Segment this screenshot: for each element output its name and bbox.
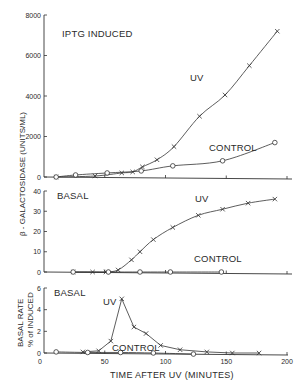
x-marker-icon	[116, 268, 120, 272]
top-panel-title: IPTG INDUCED	[62, 28, 133, 39]
middle-y-tick-label: 20	[33, 228, 41, 235]
figure: 0200040006000800001020304002460501001502…	[0, 0, 305, 387]
circle-marker-icon	[71, 270, 76, 275]
x-tick-label: 0	[38, 358, 42, 365]
circle-marker-icon	[219, 270, 224, 275]
bottom-y-tick-label: 6	[37, 285, 41, 292]
middle-y-tick-label: 0	[37, 269, 41, 276]
bot-control-label: CONTROL	[112, 342, 160, 353]
top-x-axis	[44, 177, 292, 179]
bottom-y-tick-label: 4	[37, 306, 41, 313]
series-line-uv	[73, 199, 275, 272]
top-control-label: CONTROL	[209, 142, 257, 153]
series-line-uv	[56, 31, 277, 177]
x-marker-icon	[132, 325, 136, 329]
x-axis-label: TIME AFTER UV (MINUTES)	[110, 370, 234, 380]
x-marker-icon	[197, 114, 201, 118]
y-axis-label-bottom-2: % of INDUCED	[26, 292, 35, 347]
circle-marker-icon	[54, 175, 59, 180]
x-marker-icon	[172, 144, 176, 148]
y-axis-label-main: β - GALACTOSIDASE (UNITS/ML)	[18, 112, 27, 236]
x-tick-label: 200	[281, 358, 293, 365]
circle-marker-icon	[191, 352, 196, 357]
top-y-tick-label: 4000	[25, 93, 41, 100]
mid-control-label: CONTROL	[194, 253, 242, 264]
circle-marker-icon	[139, 169, 144, 174]
bottom-y-tick-label: 2	[37, 328, 41, 335]
x-marker-icon	[171, 225, 175, 229]
mid-uv-label: UV	[195, 193, 209, 204]
circle-marker-icon	[73, 173, 78, 178]
bot-panel-title: BASAL	[54, 287, 86, 298]
middle-y-tick-label: 40	[33, 188, 41, 195]
circle-marker-icon	[85, 350, 90, 355]
x-tick-label: 100	[160, 358, 172, 365]
chart-panels: 0200040006000800001020304002460501001502…	[25, 12, 293, 366]
top-y-tick-label: 6000	[25, 52, 41, 59]
x-marker-icon	[151, 237, 155, 241]
top-y-tick-label: 8000	[25, 12, 41, 19]
mid-panel-title: BASAL	[57, 190, 89, 201]
x-marker-icon	[196, 213, 200, 217]
circle-marker-icon	[220, 159, 225, 164]
circle-marker-icon	[54, 350, 59, 355]
top-y-tick-label: 2000	[25, 133, 41, 140]
x-marker-icon	[155, 158, 159, 162]
y-axis-label-bottom-1: BASAL RATE	[16, 299, 25, 347]
circle-marker-icon	[138, 270, 143, 275]
top-y-tick-label: 0	[37, 174, 41, 181]
bottom-y-tick-label: 0	[37, 350, 41, 357]
middle-y-tick-label: 30	[33, 208, 41, 215]
x-marker-icon	[129, 258, 133, 262]
middle-y-tick-label: 10	[33, 248, 41, 255]
circle-marker-icon	[168, 270, 173, 275]
x-tick-label: 150	[220, 358, 232, 365]
x-marker-icon	[223, 93, 227, 97]
x-marker-icon	[144, 331, 148, 335]
x-marker-icon	[247, 63, 251, 67]
circle-marker-icon	[106, 270, 111, 275]
x-marker-icon	[275, 29, 279, 33]
circle-marker-icon	[105, 171, 110, 176]
top-uv-label: UV	[190, 72, 204, 83]
circle-marker-icon	[170, 164, 175, 169]
bot-uv-label: UV	[103, 296, 117, 307]
x-tick-label: 50	[101, 358, 109, 365]
circle-marker-icon	[273, 140, 278, 145]
x-marker-icon	[138, 250, 142, 254]
